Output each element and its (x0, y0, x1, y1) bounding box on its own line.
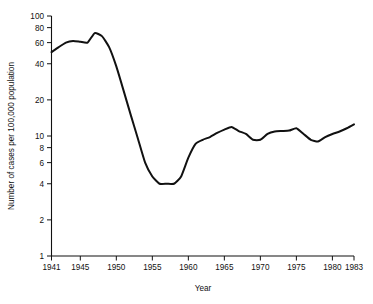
y-tick-label: 20 (35, 96, 45, 105)
y-tick-label: 80 (35, 24, 45, 33)
y-axis-title: Number of cases per 100,000 population (7, 62, 16, 210)
line-chart: 100806040201086421 194119451950195519601… (0, 0, 373, 304)
x-tick-label: 1980 (323, 263, 342, 272)
x-axis-title: Year (195, 284, 212, 293)
x-tick-label: 1945 (71, 263, 90, 272)
x-tick-label: 1970 (251, 263, 270, 272)
y-tick-label: 1 (39, 252, 44, 261)
y-axis-ticks: 100806040201086421 (30, 12, 51, 261)
data-series-line (52, 33, 355, 184)
y-tick-label: 6 (39, 159, 44, 168)
x-axis-ticks: 1941194519501955196019651970197519801983 (42, 256, 363, 272)
x-tick-label: 1975 (287, 263, 306, 272)
x-tick-label: 1983 (345, 263, 364, 272)
y-tick-label: 8 (39, 144, 44, 153)
x-tick-label: 1955 (143, 263, 162, 272)
y-tick-label: 2 (39, 216, 44, 225)
y-tick-label: 10 (35, 132, 45, 141)
chart-figure: 100806040201086421 194119451950195519601… (0, 0, 373, 304)
x-tick-label: 1941 (42, 263, 61, 272)
y-tick-label: 4 (39, 180, 44, 189)
y-tick-label: 60 (35, 39, 45, 48)
x-tick-label: 1950 (107, 263, 126, 272)
y-tick-label: 100 (30, 12, 44, 21)
y-tick-label: 40 (35, 60, 45, 69)
x-tick-label: 1965 (215, 263, 234, 272)
x-tick-label: 1960 (179, 263, 198, 272)
